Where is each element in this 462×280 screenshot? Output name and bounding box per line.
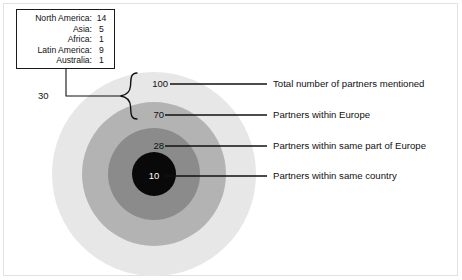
ring-value-same-part-of-europe: 28	[138, 140, 164, 151]
callout-label-total-partners: Total number of partners mentioned	[273, 78, 424, 89]
outside-europe-total-value: 30	[38, 90, 49, 101]
figure-root: North America:14 Asia:5 Africa:1 Latin A…	[0, 0, 462, 280]
ring-value-total-partners: 100	[142, 78, 168, 89]
ring-value-within-europe: 70	[138, 109, 164, 120]
ring-value-same-country: 10	[141, 170, 167, 181]
callout-label-same-part-of-europe: Partners within same part of Europe	[273, 140, 426, 151]
callout-label-same-country: Partners within same country	[273, 170, 397, 181]
callout-label-within-europe: Partners within Europe	[273, 109, 370, 120]
